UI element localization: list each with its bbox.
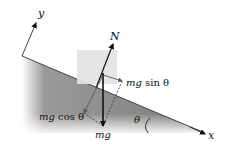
normal-force-label: N <box>109 30 120 43</box>
cos-text: cos θ <box>55 111 84 122</box>
mg-cos-label: mg cos θ <box>39 111 84 122</box>
theta-label: θ <box>134 114 140 125</box>
mg-sin-prefix: mg <box>126 77 142 88</box>
mg-sin-label: mg sin θ <box>126 77 169 88</box>
y-label: y <box>37 7 45 20</box>
x-label: x <box>208 129 215 142</box>
y-axis <box>22 23 36 56</box>
incline-diagram: y x N mg θ mg sin θ mg cos θ <box>0 0 230 151</box>
sin-text: sin θ <box>142 77 169 88</box>
mg-cos-prefix: mg <box>39 111 55 122</box>
block <box>77 50 117 84</box>
gravity-label: mg <box>95 129 111 140</box>
